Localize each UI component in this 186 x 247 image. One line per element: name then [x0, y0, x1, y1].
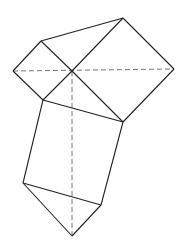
- edge-CG: [23, 100, 43, 183]
- edge-DO: [72, 18, 123, 71]
- edge-HI: [72, 205, 101, 236]
- edge-BC: [13, 71, 43, 100]
- edge-DE: [123, 18, 174, 69]
- edge-AO: [41, 41, 72, 71]
- edge-OF: [72, 71, 123, 122]
- edge-GI: [23, 183, 72, 236]
- edge-AD: [41, 18, 123, 41]
- edge-OC: [43, 71, 72, 100]
- edge-GH: [23, 183, 101, 205]
- edge-EF: [123, 69, 174, 122]
- edge-CF: [43, 100, 123, 122]
- edge-FH: [101, 122, 123, 205]
- geometry-diagram: [0, 0, 186, 247]
- dashed-line-BE: [13, 69, 174, 71]
- solid-edges: [13, 18, 174, 236]
- edge-AB: [13, 41, 41, 71]
